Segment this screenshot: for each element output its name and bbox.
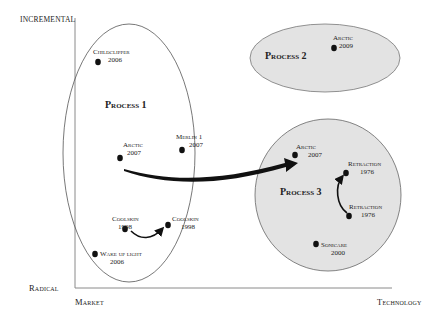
x-axis-right-label: Technology [377, 297, 422, 307]
label-retraction-1976-a: Retraction 1976 [348, 160, 381, 176]
label-wake-up-light-2006: Wake up light 2006 [100, 250, 142, 266]
label-childclipper-2006: Childclipper 2006 [93, 48, 130, 64]
label-retraction-1976-b: Retraction 1976 [349, 203, 382, 219]
x-axis-left-label: Market [75, 297, 104, 307]
point-year: 2007 [123, 149, 143, 157]
point-year: 1976 [348, 168, 381, 176]
y-axis-bottom-label: Radical [29, 283, 59, 293]
point-name: Wake up light [100, 250, 142, 258]
point-year: 1998 [172, 223, 199, 231]
process-3-label: Process 3 [280, 186, 322, 197]
dot-coolskin-1998-b [165, 222, 171, 228]
point-year: 2006 [100, 258, 142, 266]
point-name: Sonicare [321, 241, 347, 249]
point-name: Childclipper [93, 48, 130, 56]
label-arctic-2009: Arctic 2009 [333, 34, 353, 50]
point-name: Retraction [348, 160, 381, 168]
point-year: 2006 [93, 56, 130, 64]
point-name: Coolskin [112, 215, 139, 223]
point-name: Retraction [349, 203, 382, 211]
point-year: 1976 [349, 211, 382, 219]
point-year: 2007 [176, 141, 203, 149]
label-coolskin-1998-b: Coolskin 1998 [172, 215, 199, 231]
process-1-label: Process 1 [105, 99, 147, 110]
point-name: Arctic [123, 141, 143, 149]
point-name: Coolskin [172, 215, 199, 223]
y-axis-top-label: INCREMENTAL [20, 15, 75, 24]
point-year: 2000 [321, 249, 347, 257]
dot-sonicare-2000 [313, 241, 319, 247]
point-year: 2007 [296, 151, 322, 159]
label-arctic-2007-p3: Arctic 2007 [296, 143, 322, 159]
label-arctic-2007-p1: Arctic 2007 [123, 141, 143, 157]
label-sonicare-2000: Sonicare 2000 [321, 241, 347, 257]
label-coolskin-1998-a: Coolskin 1998 [112, 215, 139, 231]
point-name: Arctic [333, 34, 353, 42]
dot-arctic-2007-p1 [117, 155, 123, 161]
point-year: 1998 [112, 223, 139, 231]
point-year: 2009 [333, 42, 353, 50]
process-2-label: Process 2 [265, 50, 307, 61]
dot-wake-up-light-2006 [92, 251, 98, 257]
point-name: Merlin 1 [176, 133, 202, 141]
point-name: Arctic [296, 143, 316, 151]
label-merlin-1-2007: Merlin 1 2007 [176, 133, 203, 149]
